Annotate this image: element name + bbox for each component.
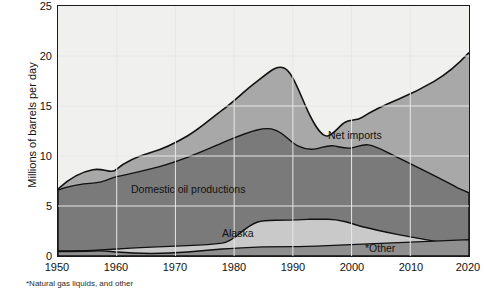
x-tick-2010: 2010 bbox=[388, 262, 434, 273]
y-tick-5: 5 bbox=[22, 201, 52, 212]
x-tick-2020: 2020 bbox=[445, 262, 485, 273]
area-chart-svg bbox=[58, 6, 469, 256]
series-label-alaska: Alaska bbox=[222, 228, 254, 239]
series-label-domestic: Domestic oil productions bbox=[131, 184, 245, 195]
series-label-net-imports: Net imports bbox=[328, 130, 382, 141]
x-tick-1970: 1970 bbox=[152, 262, 198, 273]
x-tick-1960: 1960 bbox=[93, 262, 139, 273]
series-label-other: *Other bbox=[365, 243, 395, 254]
x-tick-1990: 1990 bbox=[270, 262, 316, 273]
footnote: *Natural gas liquids, and other bbox=[26, 279, 133, 288]
x-tick-2000: 2000 bbox=[329, 262, 375, 273]
x-tick-1980: 1980 bbox=[211, 262, 257, 273]
y-tick-25: 25 bbox=[22, 1, 52, 12]
plot-area bbox=[57, 5, 470, 257]
x-tick-1950: 1950 bbox=[34, 262, 80, 273]
y-tick-15: 15 bbox=[22, 101, 52, 112]
y-tick-20: 20 bbox=[22, 51, 52, 62]
y-tick-10: 10 bbox=[22, 151, 52, 162]
